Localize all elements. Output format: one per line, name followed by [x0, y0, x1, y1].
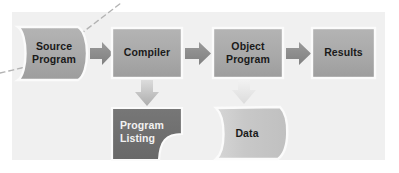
object-program-shape — [213, 28, 283, 78]
results-shape — [312, 28, 375, 78]
flow-diagram — [0, 0, 399, 173]
node-compiler[interactable] — [112, 28, 182, 78]
data-shape — [216, 107, 287, 159]
diagram-canvas: Source Program Compiler Object Program R… — [0, 0, 399, 173]
node-object-program[interactable] — [213, 28, 283, 78]
compiler-shape — [112, 28, 182, 78]
node-source-program[interactable] — [18, 27, 87, 80]
node-results[interactable] — [312, 28, 375, 78]
node-data[interactable] — [216, 107, 287, 159]
source-program-shape — [18, 27, 87, 80]
